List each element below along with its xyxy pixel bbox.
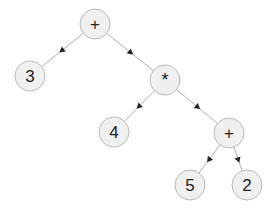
tree-node: +: [214, 118, 244, 148]
node-label: 5: [185, 176, 194, 195]
tree-node: +: [80, 9, 110, 39]
node-label: 3: [25, 67, 34, 86]
expression-tree-diagram: +3*4+52: [0, 0, 280, 210]
arrowhead-icon: [127, 49, 133, 55]
arrowhead-icon: [207, 156, 213, 162]
tree-node: *: [150, 65, 180, 95]
node-label: +: [224, 124, 234, 143]
tree-edges: [42, 33, 242, 173]
node-label: 4: [109, 123, 118, 142]
node-label: +: [90, 15, 100, 34]
arrowhead-icon: [59, 47, 65, 53]
node-label: *: [161, 70, 168, 90]
tree-node: 4: [99, 117, 129, 147]
node-label: 2: [242, 176, 251, 195]
tree-node: 2: [232, 170, 262, 200]
tree-node: 5: [175, 170, 205, 200]
tree-node: 3: [15, 61, 45, 91]
arrowhead-icon: [194, 103, 200, 109]
